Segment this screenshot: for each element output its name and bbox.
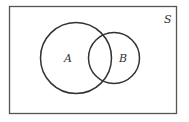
set-a-circle (41, 23, 112, 94)
set-b-circle (89, 33, 140, 84)
set-a-label: A (63, 52, 72, 65)
universe-label: S (164, 13, 172, 26)
set-b-label: B (118, 52, 127, 65)
venn-diagram: S A B (0, 0, 189, 122)
universe-rectangle (10, 7, 177, 114)
